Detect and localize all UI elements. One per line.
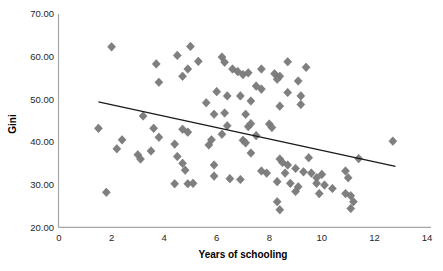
data-point — [284, 88, 292, 97]
data-point — [302, 63, 310, 72]
y-tick-label: 60.00 — [30, 51, 54, 62]
data-point — [223, 92, 231, 101]
y-tick-label: 20.00 — [30, 222, 54, 233]
data-point — [155, 133, 163, 142]
data-point — [276, 206, 284, 215]
data-point — [147, 147, 155, 156]
data-point — [286, 179, 294, 188]
data-point — [284, 57, 292, 66]
data-point — [389, 137, 397, 146]
data-point — [305, 153, 313, 162]
data-point — [118, 136, 126, 145]
y-axis-title: Gini — [7, 114, 18, 134]
data-point — [297, 100, 305, 109]
x-tick-label: 8 — [267, 232, 272, 243]
data-point — [184, 65, 192, 74]
data-point — [273, 177, 281, 186]
y-tick-label: 40.00 — [30, 136, 54, 147]
x-tick-label: 10 — [317, 232, 328, 243]
y-tick-label: 30.00 — [30, 179, 54, 190]
scatter-chart: 20.0030.0040.0050.0060.0070.000246810121… — [0, 0, 443, 271]
x-tick-label: 6 — [214, 232, 219, 243]
data-point — [179, 72, 187, 81]
data-point — [189, 179, 197, 188]
data-point — [292, 164, 300, 173]
data-point — [139, 112, 147, 121]
data-point — [186, 42, 194, 51]
data-point — [247, 97, 255, 106]
data-point — [221, 109, 229, 118]
data-point — [313, 179, 321, 188]
data-point — [320, 181, 328, 190]
data-point — [328, 184, 336, 193]
data-point — [297, 92, 305, 101]
data-point — [213, 87, 221, 96]
y-tick-label: 70.00 — [30, 8, 54, 19]
data-point — [113, 145, 121, 154]
data-point — [152, 60, 160, 69]
data-point — [108, 43, 116, 52]
data-point — [194, 57, 202, 66]
x-tick-label: 4 — [161, 232, 166, 243]
data-point — [236, 92, 244, 101]
data-point — [236, 175, 244, 184]
data-point — [276, 102, 284, 111]
data-point — [155, 78, 163, 87]
chart-canvas: 20.0030.0040.0050.0060.0070.000246810121… — [0, 0, 443, 271]
data-point — [173, 51, 181, 60]
x-tick-label: 2 — [109, 232, 114, 243]
data-point — [150, 124, 158, 133]
data-point — [257, 65, 265, 74]
data-point — [171, 179, 179, 188]
data-point — [315, 189, 323, 198]
data-point — [273, 197, 281, 206]
data-point — [242, 110, 250, 119]
data-point — [294, 77, 302, 86]
data-point — [226, 174, 234, 183]
data-point — [102, 188, 110, 197]
data-point — [299, 168, 307, 177]
x-tick-label: 0 — [56, 232, 61, 243]
x-tick-label: 14 — [422, 232, 433, 243]
x-tick-label: 12 — [369, 232, 380, 243]
data-point — [281, 169, 289, 178]
data-point — [210, 110, 218, 119]
data-point — [218, 130, 226, 139]
data-point — [247, 149, 255, 158]
data-point — [173, 152, 181, 161]
data-point — [171, 140, 179, 149]
data-point — [210, 172, 218, 181]
x-axis-title: Years of schooling — [199, 249, 288, 260]
data-point — [202, 98, 210, 107]
y-tick-label: 50.00 — [30, 94, 54, 105]
data-point — [210, 161, 218, 170]
data-point — [94, 124, 102, 133]
